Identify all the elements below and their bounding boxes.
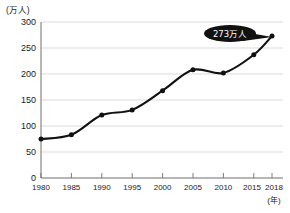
ytick-label-200: 200 [21, 69, 36, 79]
data-point-1985 [69, 132, 74, 137]
data-point-1980 [39, 137, 44, 142]
ytick-label-50: 50 [26, 147, 36, 157]
xtick-label-1995: 1995 [123, 183, 141, 192]
y-axis-tick-labels: 300 250 200 150 100 50 0 [21, 17, 36, 183]
ytick-label-150: 150 [21, 95, 36, 105]
line-chart-figure: 300 250 200 150 100 50 0 (万人) 1980 1985 … [0, 0, 290, 213]
data-point-2000 [160, 88, 165, 93]
x-tick-marks-group [41, 173, 272, 178]
data-point-markers-group [39, 34, 275, 142]
xtick-label-1985: 1985 [63, 183, 81, 192]
xtick-label-2015: 2015 [243, 183, 261, 192]
callout-label: 273万人 [213, 29, 247, 39]
xtick-label-1990: 1990 [93, 183, 111, 192]
data-point-1995 [130, 107, 135, 112]
xtick-label-2005: 2005 [184, 183, 202, 192]
ytick-label-100: 100 [21, 121, 36, 131]
ytick-label-300: 300 [21, 17, 36, 27]
data-point-2005 [190, 67, 195, 72]
ytick-label-0: 0 [31, 173, 36, 183]
x-axis-tick-labels: 1980 1985 1990 1995 2000 2005 2010 2015 … [32, 183, 283, 192]
xtick-label-2000: 2000 [154, 183, 172, 192]
xtick-label-2018: 2018 [265, 183, 283, 192]
callout-annotation-273: 273万人 [204, 25, 272, 42]
ytick-label-250: 250 [21, 43, 36, 53]
data-point-2015 [251, 52, 256, 57]
data-point-1990 [99, 113, 104, 118]
data-series-line [41, 36, 272, 139]
data-point-2010 [221, 70, 226, 75]
x-axis-unit-label: (年) [267, 195, 281, 205]
xtick-label-2010: 2010 [215, 183, 233, 192]
data-point-2018 [270, 34, 275, 39]
y-axis-unit-label: (万人) [6, 5, 30, 15]
chart-canvas: 300 250 200 150 100 50 0 (万人) 1980 1985 … [0, 0, 290, 213]
xtick-label-1980: 1980 [32, 183, 50, 192]
